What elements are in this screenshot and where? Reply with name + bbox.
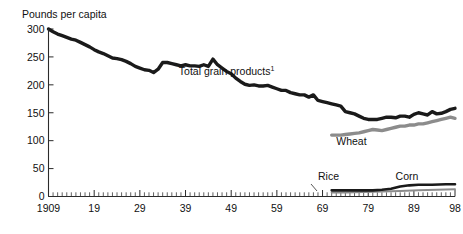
x-tick-label: 59 (271, 202, 283, 214)
y-tick-label: 300 (27, 23, 45, 35)
x-tick-label: 19 (88, 202, 100, 214)
series-label-rice: Rice (318, 170, 339, 182)
rice-leader-path (311, 184, 317, 191)
y-tick-label: 150 (27, 107, 45, 119)
x-tick-label: 39 (180, 202, 192, 214)
footnote-marker: 1 (270, 65, 274, 72)
x-tick-label: 79 (362, 202, 374, 214)
series-label-corn: Corn (396, 170, 419, 182)
x-tick-label: 69 (317, 202, 329, 214)
data-series-group (49, 29, 456, 193)
rice-leader-line (311, 184, 317, 191)
y-tick-label: 0 (39, 190, 45, 202)
y-axis-title-group: Pounds per capita (22, 8, 107, 20)
y-tick-label: 100 (27, 134, 45, 146)
series-label-wheat: Wheat (336, 135, 366, 147)
x-tick-label: 29 (134, 202, 146, 214)
grain-consumption-line-chart: Pounds per capita 050100150200250300 190… (0, 0, 463, 234)
series-label-total-grain-products: Total grain products1 (179, 65, 275, 77)
chart-container: Pounds per capita 050100150200250300 190… (0, 0, 463, 234)
y-tick-label: 50 (33, 162, 45, 174)
series-labels-group: Total grain products1WheatRiceCorn (179, 65, 419, 182)
y-tick-label: 200 (27, 79, 45, 91)
series-line-wheat (332, 117, 455, 135)
x-tick-label: 49 (225, 202, 237, 214)
x-tick-label: 98 (449, 202, 461, 214)
x-axis: 1909192939495969798998 (37, 202, 461, 214)
y-axis-title: Pounds per capita (22, 8, 107, 20)
x-tick-label: 89 (408, 202, 420, 214)
x-tick-label: 1909 (37, 202, 61, 214)
y-tick-label: 250 (27, 51, 45, 63)
y-axis: 050100150200250300 (27, 23, 54, 203)
